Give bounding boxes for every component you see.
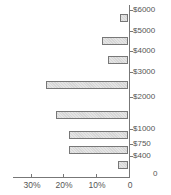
y-tick-label: $2000 bbox=[133, 93, 155, 101]
income-distribution-bar-chart: $6000 $5000 $4000 $3000 $2000 $1000 $750… bbox=[0, 0, 171, 195]
y-tick-label: 0 bbox=[153, 170, 157, 178]
y-tick-label: $750 bbox=[133, 140, 151, 148]
y-tick-label: $3000 bbox=[133, 68, 155, 76]
y-tick-label: $400 bbox=[133, 152, 151, 160]
x-tick bbox=[96, 174, 97, 178]
bar bbox=[69, 131, 128, 139]
bar bbox=[102, 37, 128, 45]
x-tick-label: 20% bbox=[55, 181, 72, 190]
bar bbox=[120, 14, 128, 22]
y-tick-label: $5000 bbox=[133, 27, 155, 35]
bar bbox=[108, 56, 128, 64]
x-tick bbox=[31, 174, 32, 178]
x-tick-label: 30% bbox=[23, 181, 40, 190]
bar bbox=[56, 111, 128, 119]
bar bbox=[118, 161, 128, 169]
y-tick-label: $1000 bbox=[133, 125, 155, 133]
y-tick-label: $4000 bbox=[133, 47, 155, 55]
x-tick-label: 10% bbox=[88, 181, 105, 190]
x-tick-label: 0 bbox=[128, 181, 133, 190]
y-tick-label: $6000 bbox=[133, 6, 155, 14]
bar bbox=[69, 146, 128, 154]
bar bbox=[46, 81, 128, 89]
x-tick bbox=[63, 174, 64, 178]
x-tick bbox=[129, 174, 130, 178]
